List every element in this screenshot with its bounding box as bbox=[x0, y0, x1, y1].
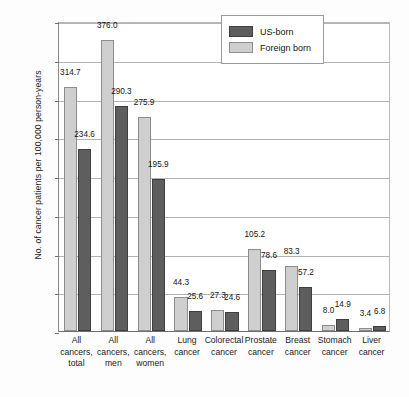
bar-value-label: 24.6 bbox=[219, 293, 244, 302]
bar-foreign bbox=[174, 297, 187, 331]
bar-usborn bbox=[152, 179, 165, 331]
bar-foreign bbox=[101, 40, 114, 331]
bar-foreign bbox=[359, 328, 372, 331]
bar-group: 3.46.8 bbox=[354, 23, 391, 331]
bar-value-label: 14.9 bbox=[330, 300, 355, 309]
cancer-incidence-bar-chart: No. of cancer patients per 100,000 perso… bbox=[0, 0, 409, 397]
bar-value-label: 290.3 bbox=[109, 87, 134, 96]
bar-value-label: 105.2 bbox=[242, 230, 267, 239]
bar-foreign bbox=[64, 87, 77, 331]
bar-group: 8.014.9 bbox=[317, 23, 354, 331]
bar-foreign bbox=[138, 117, 151, 331]
bar-group: 44.325.6 bbox=[170, 23, 207, 331]
legend-swatch-foreign-born-icon bbox=[229, 42, 253, 53]
bar-value-label: 44.3 bbox=[168, 278, 193, 287]
legend-label-us-born: US-born bbox=[260, 27, 294, 37]
bar-usborn bbox=[115, 106, 128, 331]
bar-value-label: 83.3 bbox=[279, 247, 304, 256]
plot-area: 314.7234.6376.0290.3275.9195.944.325.627… bbox=[58, 22, 390, 332]
x-axis-label-line: Liver bbox=[348, 335, 395, 347]
bar-group: 275.9195.9 bbox=[133, 23, 170, 331]
bar-value-label: 6.8 bbox=[367, 307, 392, 316]
bar-group: 314.7234.6 bbox=[59, 23, 96, 331]
y-axis-tick-mark bbox=[55, 333, 59, 334]
legend-label-foreign-born: Foreign born bbox=[260, 43, 311, 53]
bar-foreign bbox=[211, 310, 224, 331]
x-axis-label-line: women bbox=[127, 358, 174, 370]
legend-item-foreign-born: Foreign born bbox=[229, 40, 315, 55]
legend-swatch-us-born-icon bbox=[229, 26, 253, 37]
bar-value-label: 25.6 bbox=[183, 292, 208, 301]
bar-foreign bbox=[322, 325, 335, 331]
bar-group: 83.357.2 bbox=[280, 23, 317, 331]
bar-group: 105.278.6 bbox=[243, 23, 280, 331]
bar-usborn bbox=[225, 312, 238, 331]
x-axis-label-line: cancer bbox=[348, 347, 395, 359]
bar-usborn bbox=[78, 149, 91, 331]
chart-legend: US-born Foreign born bbox=[221, 15, 324, 64]
bar-group: 27.324.6 bbox=[207, 23, 244, 331]
bar-series-container: 314.7234.6376.0290.3275.9195.944.325.627… bbox=[59, 23, 389, 331]
x-axis-label: Livercancer bbox=[348, 335, 395, 358]
bar-value-label: 314.7 bbox=[58, 68, 83, 77]
bar-value-label: 78.6 bbox=[256, 251, 281, 260]
bar-usborn bbox=[262, 270, 275, 331]
bar-usborn bbox=[299, 287, 312, 331]
bar-foreign bbox=[248, 249, 261, 331]
bar-group: 376.0290.3 bbox=[96, 23, 133, 331]
bar-value-label: 234.6 bbox=[72, 130, 97, 139]
bar-value-label: 376.0 bbox=[95, 21, 120, 30]
legend-item-us-born: US-born bbox=[229, 24, 315, 39]
x-axis-category-labels: Allcancers,totalAllcancers,menAllcancers… bbox=[58, 335, 390, 395]
bar-usborn bbox=[189, 311, 202, 331]
bar-value-label: 195.9 bbox=[146, 160, 171, 169]
bar-value-label: 275.9 bbox=[132, 98, 157, 107]
bar-value-label: 57.2 bbox=[293, 268, 318, 277]
bar-usborn bbox=[373, 326, 386, 331]
bar-usborn bbox=[336, 319, 349, 331]
y-axis-title: No. of cancer patients per 100,000 perso… bbox=[33, 35, 43, 295]
